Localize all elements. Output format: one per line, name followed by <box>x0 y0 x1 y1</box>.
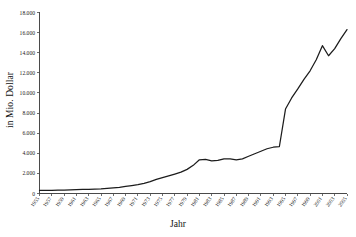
x-tick-label: 1987 <box>226 195 237 208</box>
x-tick-label: 2005 <box>337 195 348 208</box>
x-tick-label: 1983 <box>201 195 212 208</box>
x-tick-label: 1957 <box>42 195 53 208</box>
x-axis-title-text: Jahr <box>170 219 186 229</box>
x-tick-label: 1991 <box>251 195 262 208</box>
x-tick-label: 1989 <box>238 195 249 208</box>
x-tick-label: 1955 <box>29 195 40 208</box>
x-tick-label: 1993 <box>263 195 274 208</box>
chart-container: in Mio. Dollar 02.0004.0006.0008.00010.0… <box>0 0 356 237</box>
x-tick-label: 1963 <box>78 195 89 208</box>
x-tick-label: 1961 <box>66 195 77 208</box>
x-tick-label: 1981 <box>189 195 200 208</box>
x-tick-label: 1995 <box>275 195 286 208</box>
y-tick-label: 10.000 <box>20 90 36 96</box>
y-tick-label: 4.000 <box>22 150 35 156</box>
y-tick-label: 2.000 <box>22 170 35 176</box>
y-tick-label: 18.000 <box>20 10 36 16</box>
x-axis-title: Jahr <box>0 219 356 229</box>
x-tick-label: 1977 <box>165 195 176 208</box>
x-tick-label: 1965 <box>91 195 102 208</box>
x-tick-label: 1971 <box>128 195 139 208</box>
x-tick-label: 1997 <box>288 195 299 208</box>
x-tick-label: 1979 <box>177 195 188 208</box>
x-tick-label: 2003 <box>324 195 335 208</box>
x-tick-label: 1973 <box>140 195 151 208</box>
y-tick-label: 14.000 <box>20 50 36 56</box>
y-axis-tick-labels: 02.0004.0006.0008.00010.00012.00014.0001… <box>20 10 36 197</box>
x-tick-label: 1975 <box>152 195 163 208</box>
x-tick-label: 1967 <box>103 195 114 208</box>
x-tick-label: 2001 <box>312 195 323 208</box>
x-tick-label: 1985 <box>214 195 225 208</box>
x-tick-label: 1999 <box>300 195 311 208</box>
y-tick-label: 6.000 <box>22 130 35 136</box>
x-tick-label: 1969 <box>115 195 126 208</box>
y-tick-label: 12.000 <box>20 70 36 76</box>
data-series-line <box>40 30 348 191</box>
x-axis-tick-labels: 1955195719591961196319651967196919711973… <box>29 195 348 208</box>
y-tick-label: 16.000 <box>20 30 36 36</box>
y-tick-label: 8.000 <box>22 110 35 116</box>
chart-plot-area: 02.0004.0006.0008.00010.00012.00014.0001… <box>0 0 356 237</box>
x-tick-label: 1959 <box>54 195 65 208</box>
